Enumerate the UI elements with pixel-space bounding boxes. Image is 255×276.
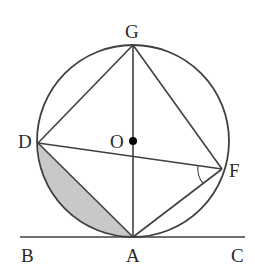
center-dot-o <box>129 137 137 145</box>
angle-mark-f <box>198 166 203 184</box>
diagram-svg: G O D F B A C <box>0 0 255 276</box>
segment-dg <box>38 45 133 143</box>
segment-df <box>38 143 222 169</box>
label-d: D <box>18 131 32 152</box>
label-f: F <box>229 160 240 181</box>
label-a: A <box>126 245 140 266</box>
segment-gf <box>133 45 222 169</box>
label-c: C <box>231 245 244 266</box>
label-o: O <box>110 131 124 152</box>
label-b: B <box>21 245 34 266</box>
label-g: G <box>125 21 139 42</box>
geometry-diagram: G O D F B A C <box>0 0 255 276</box>
